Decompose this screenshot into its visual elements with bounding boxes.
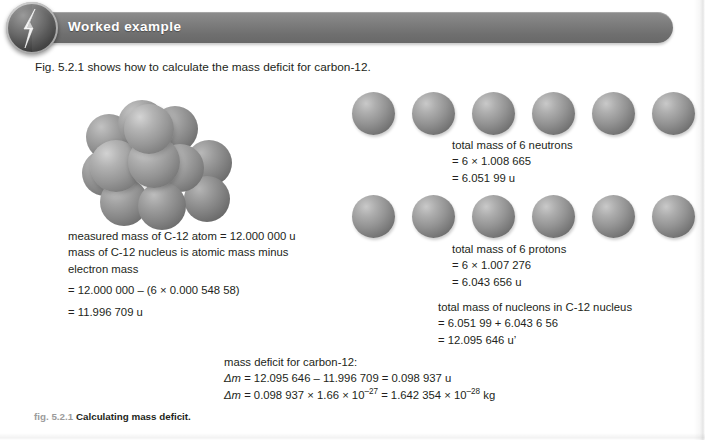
proton-sphere: [472, 195, 515, 238]
mass-deficit-line-2-rest: = 12.095 646 – 11.996 709 = 0.098 937 u: [241, 372, 451, 384]
measured-mass-line-2: mass of C-12 nucleus is atomic mass minu…: [68, 244, 296, 260]
nucleon-total-line-2: = 6.051 99 + 6.043 6 56: [438, 315, 632, 331]
carbon-12-nucleus-cluster: [80, 100, 240, 235]
neutron-sphere-row: [352, 92, 695, 135]
nucleon-total-line-1: total mass of nucleons in C-12 nucleus: [438, 299, 632, 315]
proton-mass-line-3: = 6.043 656 u: [452, 274, 566, 290]
neutron-mass-line-2: = 6 × 1.008 665: [452, 153, 573, 169]
neutron-sphere: [532, 92, 575, 135]
proton-sphere: [532, 195, 575, 238]
neutron-sphere: [412, 92, 455, 135]
intro-text: Fig. 5.2.1 shows how to calculate the ma…: [35, 60, 371, 74]
panel-bottom-edge-shadow: [0, 433, 705, 440]
neutron-mass-line-3: = 6.051 99 u: [452, 170, 573, 186]
nucleus-sphere: [138, 182, 186, 230]
measured-mass-line-1: measured mass of C-12 atom = 12.000 000 …: [68, 228, 296, 244]
panel-right-edge-shadow: [694, 0, 705, 440]
lightning-bolt-glyph: [6, 2, 58, 54]
delta-m-symbol: Δm: [224, 372, 241, 384]
proton-sphere: [652, 195, 695, 238]
proton-sphere: [352, 195, 395, 238]
figure-caption: fig. 5.2.1 Calculating mass deficit.: [34, 411, 191, 422]
exponent-minus-28: –28: [467, 387, 481, 396]
mass-deficit-line-3-c: kg: [480, 389, 495, 401]
mass-deficit-line-1: mass deficit for carbon-12:: [224, 354, 495, 370]
neutron-sphere: [472, 92, 515, 135]
proton-sphere-row: [352, 195, 695, 238]
lightning-bolt-badge-icon: [6, 2, 58, 54]
proton-sphere: [412, 195, 455, 238]
measured-mass-line-3: electron mass: [68, 261, 296, 277]
proton-mass-line-2: = 6 × 1.007 276: [452, 257, 566, 273]
mass-deficit-line-2: Δm = 12.095 646 – 11.996 709 = 0.098 937…: [224, 370, 495, 386]
nucleus-sphere: [124, 104, 174, 154]
exponent-minus-27: –27: [364, 387, 378, 396]
neutron-sphere: [592, 92, 635, 135]
nucleon-total-calculation: total mass of nucleons in C-12 nucleus =…: [438, 299, 632, 348]
figure-caption-text: Calculating mass deficit.: [76, 411, 191, 422]
proton-mass-calculation: total mass of 6 protons = 6 × 1.007 276 …: [452, 241, 566, 290]
measured-mass-line-4: = 12.000 000 – (6 × 0.000 548 58): [68, 282, 296, 298]
mass-deficit-calculation: mass deficit for carbon-12: Δm = 12.095 …: [224, 354, 495, 403]
proton-mass-line-1: total mass of 6 protons: [452, 241, 566, 257]
neutron-sphere: [352, 92, 395, 135]
neutron-mass-calculation: total mass of 6 neutrons = 6 × 1.008 665…: [452, 137, 573, 186]
mass-deficit-line-3-b: = 1.642 354 × 10: [378, 389, 467, 401]
mass-deficit-line-3-a: = 0.098 937 × 1.66 × 10: [241, 389, 364, 401]
worked-example-panel: Worked example Fig. 5.2.1 shows how to c…: [0, 0, 705, 440]
nucleon-total-line-3: = 12.095 646 u’: [438, 332, 632, 348]
figure-caption-number: fig. 5.2.1: [34, 411, 73, 422]
neutron-sphere: [652, 92, 695, 135]
delta-m-symbol: Δm: [224, 389, 241, 401]
proton-sphere: [592, 195, 635, 238]
measured-mass-calculation: measured mass of C-12 atom = 12.000 000 …: [68, 228, 296, 320]
measured-mass-line-5: = 11.996 709 u: [68, 304, 296, 320]
page-title: Worked example: [68, 19, 181, 34]
neutron-mass-line-1: total mass of 6 neutrons: [452, 137, 573, 153]
mass-deficit-line-3: Δm = 0.098 937 × 1.66 × 10–27 = 1.642 35…: [224, 387, 495, 403]
